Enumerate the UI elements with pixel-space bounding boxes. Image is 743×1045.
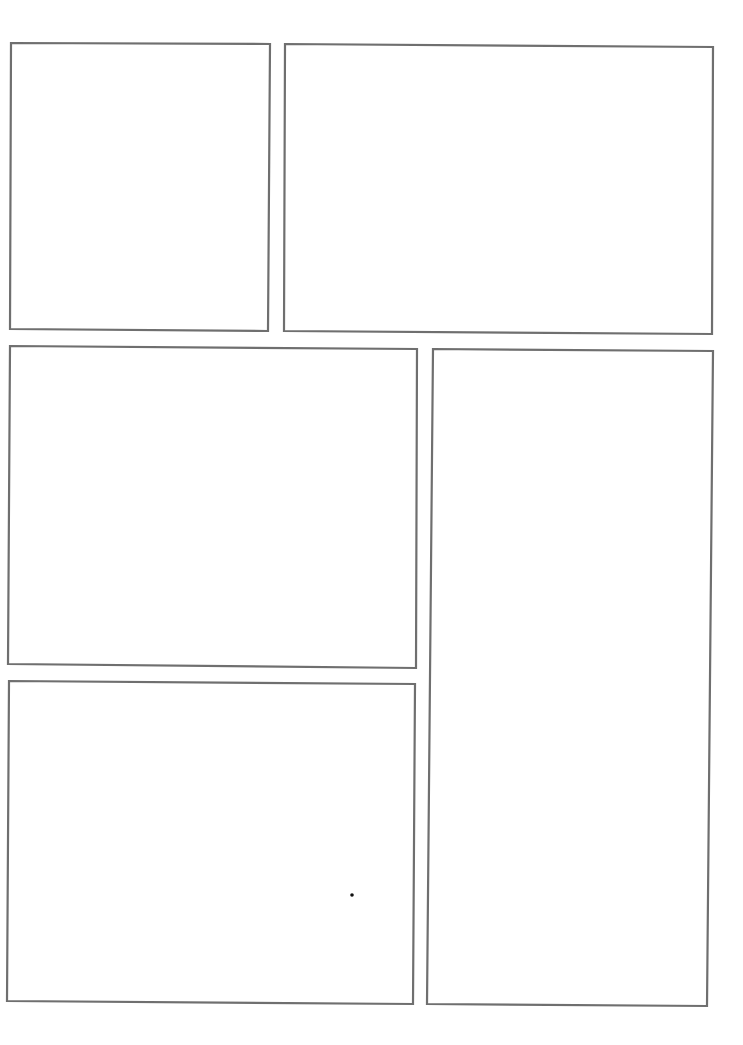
panel-middle-left	[8, 346, 417, 668]
panel-bottom-left	[7, 681, 415, 1004]
comic-page	[0, 0, 743, 1045]
panel-top-left	[10, 43, 270, 331]
ink-speck	[350, 893, 354, 897]
panel-top-right	[284, 44, 713, 334]
panel-right-tall	[427, 349, 713, 1006]
